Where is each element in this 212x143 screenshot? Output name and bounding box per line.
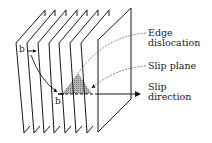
slip-plane-leader <box>92 66 146 88</box>
edge-dislocation-label: Edge dislocation <box>148 28 200 48</box>
slip-direction-label: Slip direction <box>148 82 191 102</box>
burgers-vector-top-label: b <box>19 44 25 54</box>
burgers-curve-arrow <box>31 55 57 92</box>
slip-plane-shaded-triangle <box>62 73 92 94</box>
plane-7 <box>81 10 109 133</box>
edge-dislocation-diagram <box>0 0 212 143</box>
crystal-planes <box>16 8 131 133</box>
plane-8 <box>98 8 131 132</box>
burgers-vector-bottom-label: b <box>55 96 61 106</box>
plane-4 <box>49 10 77 133</box>
slip-plane-label: Slip plane <box>148 61 196 71</box>
plane-1 <box>16 10 45 133</box>
